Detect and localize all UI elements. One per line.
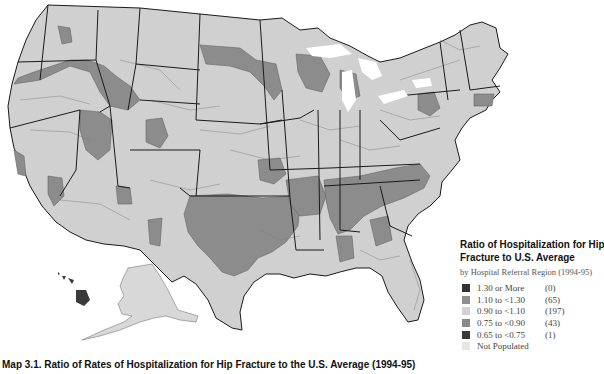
- legend-label: 0.90 to <1.10: [477, 306, 545, 316]
- legend-title-line1: Ratio of Hospitalization for Hip: [460, 238, 584, 251]
- legend-count: (65): [545, 295, 560, 305]
- legend-item: 0.65 to <0.75 (1): [458, 329, 604, 341]
- legend-title-line2: Fracture to U.S. Average: [460, 251, 584, 264]
- legend-count: (197): [545, 306, 565, 316]
- legend-swatch: [462, 319, 470, 327]
- legend-label: 0.65 to <0.75: [477, 330, 545, 340]
- legend-item: 0.75 to <0.90 (43): [458, 317, 604, 329]
- legend-item: 1.10 to <1.30 (65): [458, 294, 604, 306]
- legend-swatch: [462, 342, 470, 350]
- map-caption: Map 3.1. Ratio of Rates of Hospitalizati…: [2, 358, 415, 370]
- hawaii: [58, 272, 90, 306]
- legend-subtitle: by Hospital Referral Region (1994-95): [460, 267, 604, 277]
- contiguous-us-landmass: [8, 5, 508, 330]
- legend-label: 1.30 or More: [477, 283, 545, 293]
- legend-swatch: [462, 296, 470, 304]
- legend-count: (43): [545, 318, 560, 328]
- legend-label: 0.75 to <0.90: [477, 318, 545, 328]
- legend-swatch: [462, 307, 470, 315]
- legend-item: Not Populated: [458, 340, 604, 352]
- legend-label: 1.10 to <1.30: [477, 295, 545, 305]
- map-legend: Ratio of Hospitalization for Hip Fractur…: [458, 238, 604, 352]
- legend-item: 0.90 to <1.10 (197): [458, 305, 604, 317]
- legend-count: (1): [545, 330, 556, 340]
- legend-count: (0): [545, 283, 556, 293]
- legend-label: Not Populated: [477, 341, 545, 351]
- legend-item: 1.30 or More (0): [458, 282, 604, 294]
- legend-swatch: [462, 331, 470, 339]
- legend-swatch: [462, 284, 470, 292]
